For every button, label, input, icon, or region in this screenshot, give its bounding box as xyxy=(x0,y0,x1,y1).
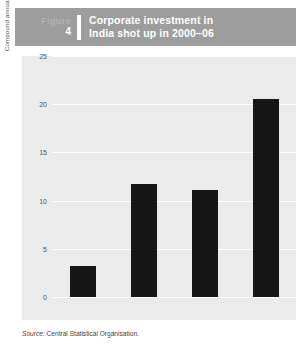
figure-header: Figure 4 Corporate investment in India s… xyxy=(15,8,296,46)
y-axis-tick-label: 0 xyxy=(43,294,47,301)
source-note: Source: Central Statistical Organisation… xyxy=(22,330,139,337)
figure-container: Figure 4 Corporate investment in India s… xyxy=(0,0,308,358)
figure-number-label: 4 xyxy=(15,26,71,38)
source-text: Central Statistical Organisation. xyxy=(47,330,139,337)
figure-title-line-1: Corporate investment in xyxy=(89,14,214,27)
bar xyxy=(70,266,96,297)
bar-slot xyxy=(235,56,296,297)
y-axis-tick-label: 20 xyxy=(39,101,47,108)
figure-tag: Figure 4 xyxy=(15,16,77,38)
bar xyxy=(192,190,218,297)
bar-slot xyxy=(113,56,174,297)
figure-word-label: Figure xyxy=(15,16,71,26)
bar-slot xyxy=(174,56,235,297)
bar-slot xyxy=(52,56,113,297)
y-axis-tick-label: 10 xyxy=(39,197,47,204)
y-axis-tick-label: 15 xyxy=(39,149,47,156)
figure-title-line-2: India shot up in 2000–06 xyxy=(89,27,214,40)
y-axis-tick-label: 25 xyxy=(39,53,47,60)
figure-title: Corporate investment in India shot up in… xyxy=(81,14,214,40)
y-axis-label: Compound annual growth rate of real corp… xyxy=(0,0,14,84)
source-keyword: Source: xyxy=(22,330,45,337)
y-axis-tick-label: 5 xyxy=(43,245,47,252)
bar xyxy=(131,184,157,297)
gridline: 0 xyxy=(52,297,296,298)
bar xyxy=(253,99,279,297)
bar-series: 1970–791980–891990–992000–06 xyxy=(52,56,296,297)
